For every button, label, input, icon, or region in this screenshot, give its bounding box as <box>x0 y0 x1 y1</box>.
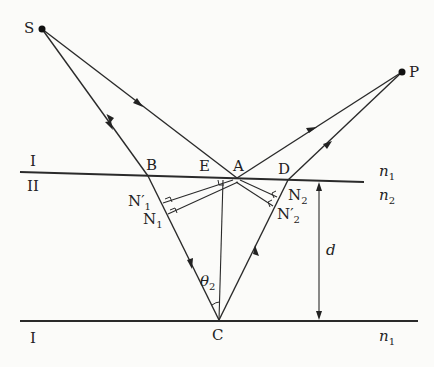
normal-at-C <box>219 180 223 320</box>
ray-C-to-D <box>219 180 288 320</box>
label-A: A <box>232 157 244 175</box>
label-N1prime: N′1 <box>128 192 151 212</box>
thickness-arrow-top <box>316 182 322 191</box>
label-N2prime: N′2 <box>277 205 300 225</box>
label-n1-top: n1 <box>379 162 395 182</box>
label-n1-bottom: n1 <box>379 327 395 347</box>
label-S: S <box>24 19 34 37</box>
label-P: P <box>409 63 419 81</box>
label-B: B <box>146 156 157 174</box>
observer-point-P <box>399 69 406 76</box>
ray-B-to-C <box>148 176 219 320</box>
ray-A-to-P <box>237 72 402 178</box>
label-D: D <box>278 160 290 178</box>
label-N2: N2 <box>288 186 308 206</box>
top-interface-line <box>20 172 364 182</box>
label-region-I-bottom: I <box>30 329 36 347</box>
right-angle-N2 <box>272 191 276 198</box>
label-C: C <box>212 326 223 344</box>
label-n2-film: n2 <box>379 186 395 206</box>
label-region-II: II <box>27 177 39 195</box>
arrowhead-S-B <box>105 121 113 130</box>
ray-S-to-B <box>42 29 148 176</box>
arrowhead-C-D <box>253 245 259 256</box>
thickness-arrow-bottom <box>316 311 322 320</box>
label-theta2: θ2 <box>200 272 215 292</box>
label-N1: N1 <box>143 210 163 230</box>
thin-film-diagram: S P B E A D C N′1 N1 N2 N′2 I II I n1 n2… <box>0 0 434 367</box>
perpendicular-A-N2prime <box>236 182 273 206</box>
source-point-S <box>39 26 46 33</box>
label-E: E <box>199 157 210 175</box>
arrowhead-B-C <box>187 258 193 269</box>
theta2-angle-arc <box>212 302 220 305</box>
label-thickness-d: d <box>326 241 336 259</box>
label-region-I-top: I <box>30 152 36 170</box>
